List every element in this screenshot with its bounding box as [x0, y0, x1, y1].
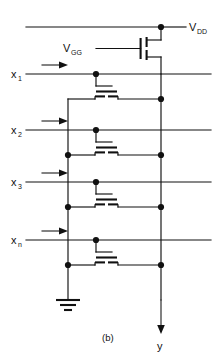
input-arrow-head-xn [59, 227, 68, 234]
circuit-diagram-figure: V DD V GG y [0, 0, 217, 358]
input-label-subscript-x1: 1 [18, 75, 22, 82]
input-label-x2: x [11, 124, 17, 136]
output-arrow-head [157, 325, 165, 334]
load-transistor-group: V GG [63, 27, 161, 74]
figure-caption: (b) [102, 332, 114, 343]
output-node-dot-xn [158, 262, 164, 268]
input-label-x1: x [11, 68, 17, 80]
output-node-dot-x1 [158, 96, 164, 102]
circuit-schematic-svg: V DD V GG y [0, 0, 217, 358]
vgg-label-subscript: GG [71, 49, 82, 56]
stage-x3: x 3 [11, 169, 211, 210]
input-label-subscript-x2: 2 [18, 131, 22, 138]
input-arrow-head-x2 [59, 117, 68, 124]
stage-x1: x 1 [11, 61, 211, 102]
output-node-dot-x3 [158, 204, 164, 210]
left-rail-dot-xn [65, 262, 71, 268]
vgg-label: V [63, 42, 71, 54]
input-arrow-head-x3 [59, 169, 68, 176]
left-rail-dot-x3 [65, 204, 71, 210]
input-label-subscript-x3: 3 [18, 183, 22, 190]
input-label-subscript-xn: n [18, 241, 22, 248]
output-rail-group: y [157, 74, 165, 352]
stage-x2: x 2 [11, 117, 211, 158]
input-label-xn: x [11, 234, 17, 246]
output-node-dot-x2 [158, 152, 164, 158]
vdd-label: V [189, 21, 197, 33]
output-label-y: y [157, 340, 163, 352]
stage-xn: x n [11, 227, 211, 268]
input-label-x3: x [11, 176, 17, 188]
ground-symbol-group [56, 300, 80, 310]
input-arrow-head-x1 [59, 61, 68, 68]
vdd-label-subscript: DD [197, 28, 207, 35]
left-rail-dot-x2 [65, 152, 71, 158]
vdd-supply-rail-group: V DD [26, 21, 207, 35]
